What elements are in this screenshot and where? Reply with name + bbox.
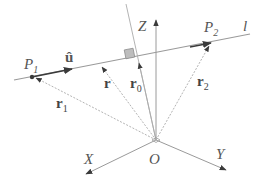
right-angle-marker — [124, 48, 135, 59]
label-r0: r0 — [130, 76, 142, 91]
diagram-svg — [0, 0, 265, 189]
label-r: r — [104, 76, 111, 91]
label-z-axis: Z — [138, 19, 146, 34]
x-axis — [86, 140, 156, 174]
label-line-l: l — [243, 19, 247, 34]
label-y-axis: Y — [216, 147, 224, 162]
label-p2: P2 — [204, 20, 218, 35]
diagram-canvas: P1 P2 l û Z X Y O r r0 r1 r2 — [0, 0, 265, 189]
vector-r2 — [156, 46, 209, 140]
label-r1: r1 — [56, 96, 68, 111]
label-r2: r2 — [197, 74, 209, 89]
label-u-hat: û — [65, 50, 73, 65]
label-x-axis: X — [84, 152, 93, 167]
label-origin: O — [149, 152, 160, 167]
label-p1: P1 — [24, 57, 38, 72]
point-p1 — [30, 75, 34, 79]
